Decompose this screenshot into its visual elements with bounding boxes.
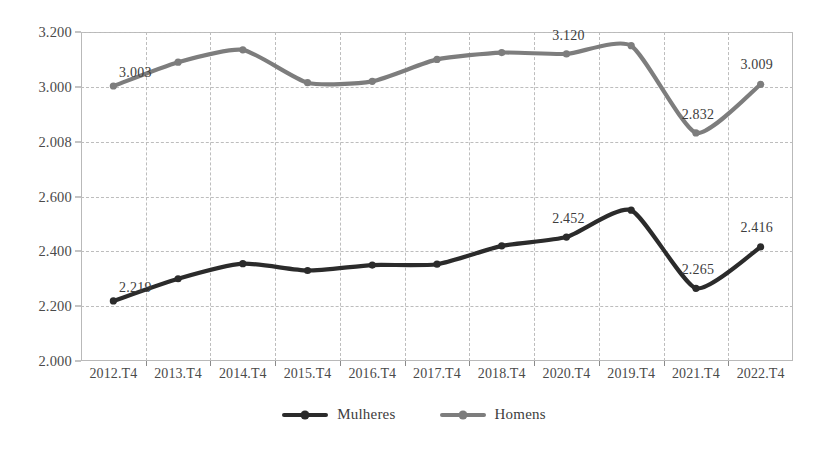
y-axis-tick-mark [75,86,81,87]
plot-area [81,32,793,361]
data-point-label: 2.452 [552,211,585,227]
line-chart: 3.2003.0002.0082.6002.4002.2002.000 2012… [0,0,828,454]
x-axis-tick-label: 2015.T4 [284,366,332,382]
x-axis-tick-mark [275,361,276,366]
y-axis-tick-mark [75,306,81,307]
x-axis-tick-label: 2020.T4 [543,366,591,382]
legend-swatch-icon [282,409,328,421]
x-axis-tick-mark [728,361,729,366]
x-axis-tick-label: 2014.T4 [219,366,267,382]
x-axis-tick-mark [469,361,470,366]
x-axis-tick-mark [405,361,406,366]
y-axis-tick-mark [75,361,81,362]
y-axis-tick-label: 3.200 [2,24,72,41]
y-axis-tick-label: 3.000 [2,78,72,95]
data-point-label: 2.219 [119,280,152,296]
y-axis-tick-label: 2.200 [2,298,72,315]
y-axis-tick-label: 2.400 [2,243,72,260]
chart-legend: MulheresHomens [0,406,828,423]
x-axis-tick-mark [210,361,211,366]
y-axis-tick-label: 2.600 [2,188,72,205]
legend-item-mulheres[interactable]: Mulheres [282,406,395,423]
x-axis-tick-label: 2022.T4 [737,366,785,382]
legend-item-homens[interactable]: Homens [440,406,546,423]
x-axis-tick-label: 2018.T4 [478,366,526,382]
x-axis-tick-label: 2017.T4 [413,366,461,382]
y-axis-tick-mark [75,196,81,197]
data-point-label: 2.832 [682,107,715,123]
legend-label: Mulheres [337,406,395,423]
legend-label: Homens [495,406,546,423]
y-axis-tick-mark [75,32,81,33]
x-axis-tick-label: 2021.T4 [672,366,720,382]
data-point-label: 3.009 [740,57,773,73]
x-axis-tick-label: 2016.T4 [348,366,396,382]
y-axis-tick-label: 2.008 [2,133,72,150]
x-axis-tick-label: 2019.T4 [607,366,655,382]
x-axis-tick-mark [534,361,535,366]
x-axis-tick-mark [146,361,147,366]
data-point-label: 3.003 [119,65,152,81]
data-point-label: 2.416 [740,220,773,236]
x-axis-tick-mark [664,361,665,366]
y-axis-tick-mark [75,141,81,142]
x-axis-tick-mark [340,361,341,366]
x-axis-tick-label: 2013.T4 [154,366,202,382]
y-axis-tick-mark [75,251,81,252]
legend-swatch-icon [440,409,486,421]
y-axis-tick-label: 2.000 [2,353,72,370]
data-point-label: 3.120 [552,28,585,44]
data-point-label: 2.265 [682,262,715,278]
x-axis-tick-mark [599,361,600,366]
x-axis-tick-label: 2012.T4 [89,366,137,382]
